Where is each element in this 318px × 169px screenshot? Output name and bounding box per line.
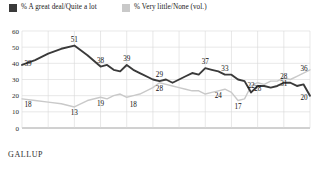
data-series-line — [22, 46, 310, 96]
data-point-label: 51 — [71, 36, 79, 44]
data-point-label: 17 — [234, 103, 242, 111]
data-point-label: 24 — [215, 92, 223, 100]
legend-item-great-deal: % A great deal/Quite a lot — [9, 3, 97, 12]
y-axis-tick-label: 30 — [12, 76, 20, 84]
line-chart: 0102030405060197319771981198519891993199… — [0, 18, 318, 134]
legend-label-very-little: % Very little/None (vol.) — [134, 3, 207, 12]
x-axis-tick-label: 1973 — [15, 133, 30, 134]
legend-swatch-icon — [9, 4, 17, 12]
x-axis-tick-label: 2013 — [277, 133, 292, 134]
data-point-label: 36 — [300, 65, 308, 73]
chart-page: % A great deal/Quite a lot % Very little… — [0, 0, 318, 169]
data-point-label: 37 — [202, 58, 210, 66]
data-point-label: 13 — [71, 109, 79, 117]
data-point-label: 39 — [123, 55, 131, 63]
data-point-label: 18 — [130, 101, 138, 109]
data-point-label: 39 — [24, 60, 32, 68]
data-point-label: 28 — [156, 85, 164, 93]
x-axis-tick-label: 1985 — [94, 133, 109, 134]
data-point-label: 29 — [156, 71, 164, 79]
y-axis-tick-label: 40 — [12, 60, 20, 68]
data-point-label: 28 — [254, 85, 262, 93]
data-point-label: 31 — [280, 80, 288, 88]
y-axis-tick-label: 50 — [12, 44, 20, 52]
source-attribution: GALLUP — [8, 150, 43, 159]
x-axis-tick-label: 2005 — [224, 133, 239, 134]
legend-label-great-deal: % A great deal/Quite a lot — [21, 3, 97, 12]
y-axis-tick-label: 60 — [12, 28, 20, 36]
x-axis-tick-label: 1993 — [146, 133, 161, 134]
data-point-label: 20 — [300, 94, 308, 102]
legend-item-very-little: % Very little/None (vol.) — [122, 3, 207, 12]
chart-plot-area: 0102030405060197319771981198519891993199… — [0, 18, 318, 134]
x-axis-tick-label: 2017 — [303, 133, 318, 134]
data-point-label: 18 — [24, 101, 32, 109]
x-axis-tick-label: 1989 — [120, 133, 135, 134]
data-point-label: 19 — [97, 100, 105, 108]
x-axis-tick-label: 2009 — [251, 133, 266, 134]
x-axis-tick-label: 1981 — [67, 133, 82, 134]
data-series-line — [22, 70, 310, 107]
data-point-label: 33 — [221, 65, 229, 73]
x-axis-tick-label: 1977 — [41, 133, 56, 134]
y-axis-tick-label: 20 — [12, 92, 20, 100]
chart-legend: % A great deal/Quite a lot % Very little… — [0, 2, 318, 18]
x-axis-tick-label: 2001 — [198, 133, 213, 134]
legend-swatch-icon — [122, 4, 130, 12]
y-axis-tick-label: 10 — [12, 108, 20, 116]
data-point-label: 38 — [97, 57, 105, 65]
x-axis-tick-label: 1997 — [172, 133, 187, 134]
y-axis-tick-label: 0 — [16, 125, 20, 133]
